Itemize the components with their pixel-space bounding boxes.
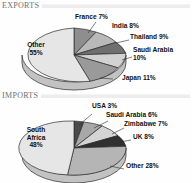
label-other: Other 28% <box>126 162 190 170</box>
label-saudi-arabia: Saudi Arabia 6% <box>106 111 192 119</box>
label-usa: USA 3% <box>92 102 152 110</box>
imports-section: IMPORTS <box>0 90 192 183</box>
exports-section: EXPORTS <box>0 0 192 92</box>
label-other: Other 55% <box>20 41 52 56</box>
label-zimbabwe: Zimbabwe 7% <box>124 120 192 128</box>
label-south-africa: South Africa 48% <box>18 126 54 149</box>
label-saudi-arabia: Saudi Arabia 10% <box>133 46 191 61</box>
label-india: India 8% <box>112 22 172 30</box>
label-thailand: Thailand 9% <box>130 33 190 41</box>
label-uk: UK 8% <box>133 133 191 141</box>
label-japan: Japan 11% <box>122 74 182 82</box>
label-france: France 7% <box>56 13 108 21</box>
